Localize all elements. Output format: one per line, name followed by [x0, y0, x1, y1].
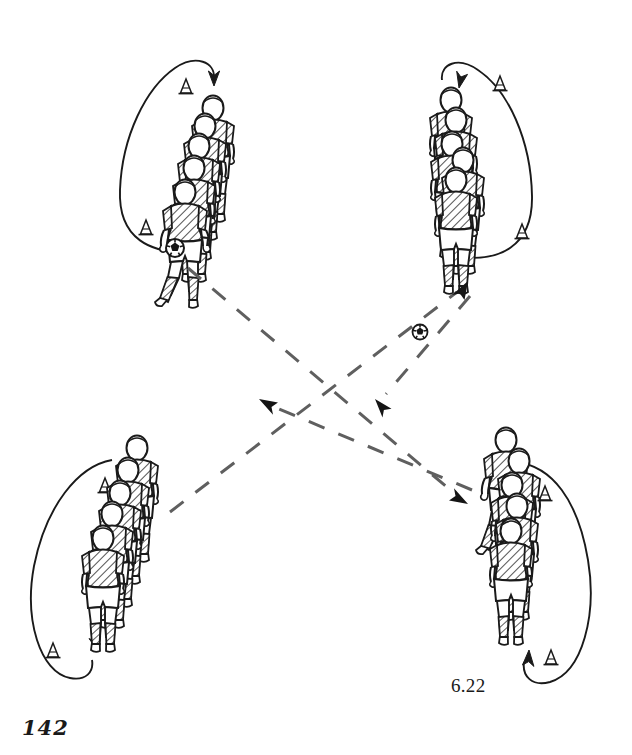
page-number-label: 142: [22, 715, 69, 740]
figure-number-label: 6.22: [451, 675, 485, 697]
soccer-ball-in-flight: [413, 325, 428, 340]
training-drill-figure: [0, 0, 632, 755]
soccer-ball: [166, 239, 184, 257]
